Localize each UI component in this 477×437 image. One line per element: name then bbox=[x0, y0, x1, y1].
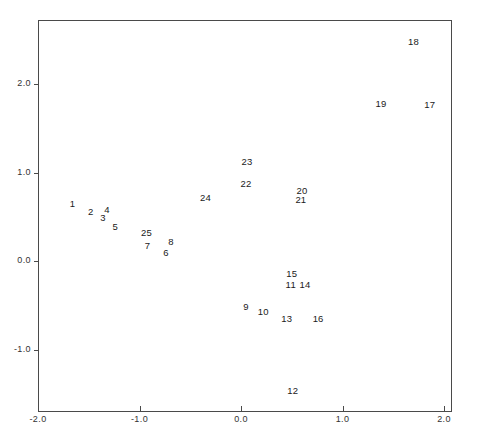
data-point-label: 17 bbox=[424, 99, 435, 110]
plot-frame-top bbox=[38, 20, 452, 21]
data-point-label: 1 bbox=[70, 197, 75, 208]
data-point-label: 18 bbox=[408, 35, 419, 46]
data-point-label: 23 bbox=[242, 155, 253, 166]
y-tick bbox=[34, 173, 39, 174]
x-axis-line bbox=[38, 411, 452, 412]
y-tick bbox=[34, 84, 39, 85]
data-point-label: 13 bbox=[281, 312, 292, 323]
data-point-label: 22 bbox=[241, 178, 252, 189]
x-tick-label: -2.0 bbox=[18, 414, 58, 424]
x-tick-label: 2.0 bbox=[424, 414, 464, 424]
data-point-label: 6 bbox=[163, 247, 168, 258]
data-point-label: 7 bbox=[145, 240, 150, 251]
data-point-label: 8 bbox=[168, 235, 173, 246]
y-tick bbox=[34, 261, 39, 262]
data-point-label: 16 bbox=[313, 312, 324, 323]
y-axis-line bbox=[38, 20, 39, 412]
x-tick bbox=[343, 406, 344, 411]
y-tick-label: 2.0 bbox=[0, 78, 31, 88]
scatter-plot: -2.0-1.00.01.02.0 -1.00.01.02.0 12345678… bbox=[0, 0, 477, 437]
y-tick bbox=[34, 350, 39, 351]
data-point-label: 12 bbox=[287, 385, 298, 396]
x-tick bbox=[444, 406, 445, 411]
data-point-label: 25 bbox=[141, 226, 152, 237]
y-tick-label: 1.0 bbox=[0, 167, 31, 177]
data-point-label: 19 bbox=[376, 97, 387, 108]
x-tick bbox=[140, 406, 141, 411]
x-tick-label: -1.0 bbox=[120, 414, 160, 424]
x-tick bbox=[241, 406, 242, 411]
data-point-label: 21 bbox=[295, 194, 306, 205]
x-tick-label: 0.0 bbox=[221, 414, 261, 424]
y-tick-label: -1.0 bbox=[0, 344, 31, 354]
data-point-label: 9 bbox=[243, 301, 248, 312]
plot-frame-right bbox=[451, 20, 452, 412]
x-tick-label: 1.0 bbox=[323, 414, 363, 424]
x-tick bbox=[38, 406, 39, 411]
data-point-label: 24 bbox=[200, 192, 211, 203]
data-point-label: 2 bbox=[88, 206, 93, 217]
data-point-label: 10 bbox=[258, 305, 269, 316]
data-point-label: 11 bbox=[286, 279, 296, 290]
data-point-label: 4 bbox=[104, 203, 109, 214]
data-point-label: 14 bbox=[299, 279, 310, 290]
data-point-label: 5 bbox=[112, 220, 117, 231]
data-point-label: 15 bbox=[286, 268, 297, 279]
y-tick-label: 0.0 bbox=[0, 255, 31, 265]
